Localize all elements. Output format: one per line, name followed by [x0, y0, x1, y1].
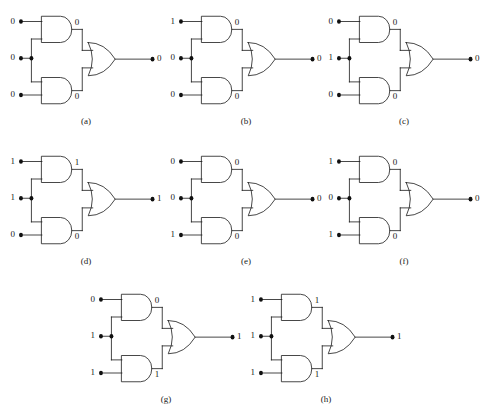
and-gate-bottom — [202, 218, 232, 244]
input-terminal-bottom — [179, 233, 183, 238]
output-label: 0 — [317, 54, 322, 63]
and-gate-bottom — [42, 218, 72, 244]
and-output-label-top: 0 — [393, 158, 398, 167]
input-terminal-bottom — [337, 93, 341, 98]
input-terminal-middle — [337, 196, 341, 201]
and-gate-top — [122, 294, 152, 320]
circuit-schematic-c — [324, 4, 484, 116]
input-terminal-top — [337, 19, 341, 24]
input-label-bottom: 1 — [328, 230, 333, 239]
circuit-caption-c: (c) — [324, 116, 484, 126]
circuit-e: 001000(e) — [166, 144, 326, 272]
input-terminal-middle — [179, 196, 183, 201]
input-label-bottom: 0 — [170, 90, 175, 99]
and-output-label-bottom: 0 — [393, 92, 398, 101]
circuit-f: 101000(f) — [324, 144, 484, 272]
circuit-schematic-f — [324, 144, 484, 256]
and-gate-bottom — [42, 78, 72, 104]
circuit-caption-g: (g) — [86, 394, 246, 404]
output-terminal — [311, 57, 315, 62]
and-output-label-top: 0 — [75, 18, 80, 27]
input-terminal-top — [19, 19, 23, 24]
input-label-middle: 0 — [170, 53, 175, 62]
output-label: 0 — [475, 194, 480, 203]
input-terminal-top — [337, 159, 341, 164]
junction-dot-middle — [109, 334, 113, 339]
circuit-schematic-e — [166, 144, 326, 256]
input-label-bottom: 0 — [10, 230, 15, 239]
and-gate-top — [202, 156, 232, 182]
input-label-middle: 0 — [328, 193, 333, 202]
input-label-bottom: 1 — [250, 368, 255, 377]
or-gate — [88, 183, 115, 216]
input-terminal-middle — [99, 334, 103, 339]
or-gate — [248, 43, 275, 76]
circuit-caption-a: (a) — [6, 116, 166, 126]
input-label-bottom: 1 — [170, 230, 175, 239]
circuit-caption-h: (h) — [246, 394, 406, 404]
circuit-g: 011011(g) — [86, 282, 246, 407]
junction-dot-middle — [29, 56, 33, 61]
and-gate-bottom — [202, 78, 232, 104]
output-terminal — [151, 57, 155, 62]
and-output-label-top: 0 — [235, 158, 240, 167]
input-terminal-top — [259, 297, 263, 302]
or-gate — [88, 43, 115, 76]
junction-dot-middle — [189, 196, 193, 201]
input-label-top: 0 — [328, 17, 333, 26]
circuit-a: 000000(a) — [6, 4, 166, 132]
and-output-label-top: 1 — [315, 296, 320, 305]
and-gate-top — [360, 156, 390, 182]
circuit-h: 111111(h) — [246, 282, 406, 407]
circuit-schematic-d — [6, 144, 166, 256]
output-terminal — [391, 335, 395, 340]
input-label-bottom: 0 — [10, 90, 15, 99]
output-terminal — [231, 335, 235, 340]
and-output-label-top: 0 — [155, 296, 160, 305]
circuit-caption-e: (e) — [166, 256, 326, 266]
input-terminal-top — [179, 159, 183, 164]
and-gate-top — [360, 16, 390, 42]
input-terminal-bottom — [337, 233, 341, 238]
output-terminal — [151, 197, 155, 202]
input-terminal-middle — [259, 334, 263, 339]
input-label-top: 1 — [10, 157, 15, 166]
or-gate — [248, 183, 275, 216]
or-gate — [328, 321, 355, 354]
junction-dot-middle — [347, 196, 351, 201]
circuit-b: 100000(b) — [166, 4, 326, 132]
input-terminal-middle — [19, 56, 23, 61]
and-gate-top — [282, 294, 312, 320]
input-terminal-top — [19, 159, 23, 164]
input-terminal-bottom — [179, 93, 183, 98]
circuit-d: 110101(d) — [6, 144, 166, 272]
circuit-caption-d: (d) — [6, 256, 166, 266]
and-output-label-bottom: 0 — [75, 92, 80, 101]
logic-circuit-figure: 000000(a)100000(b)010000(c)110101(d)0010… — [0, 0, 490, 407]
junction-dot-middle — [269, 334, 273, 339]
and-gate-bottom — [360, 218, 390, 244]
circuit-schematic-g — [86, 282, 246, 394]
and-output-label-bottom: 0 — [235, 92, 240, 101]
circuit-caption-f: (f) — [324, 256, 484, 266]
input-label-top: 0 — [90, 295, 95, 304]
output-label: 0 — [157, 54, 162, 63]
and-gate-top — [202, 16, 232, 42]
input-label-top: 0 — [10, 17, 15, 26]
and-output-label-top: 0 — [393, 18, 398, 27]
input-label-middle: 1 — [90, 331, 95, 340]
output-terminal — [311, 197, 315, 202]
junction-dot-middle — [189, 56, 193, 61]
input-label-top: 0 — [170, 157, 175, 166]
and-output-label-top: 0 — [235, 18, 240, 27]
and-output-label-top: 1 — [75, 158, 80, 167]
input-terminal-top — [99, 297, 103, 302]
input-terminal-middle — [337, 56, 341, 61]
and-gate-top — [42, 16, 72, 42]
circuit-schematic-h — [246, 282, 406, 394]
and-gate-bottom — [282, 356, 312, 382]
circuit-schematic-a — [6, 4, 166, 116]
circuit-caption-b: (b) — [166, 116, 326, 126]
input-label-top: 1 — [328, 157, 333, 166]
output-label: 0 — [475, 54, 480, 63]
